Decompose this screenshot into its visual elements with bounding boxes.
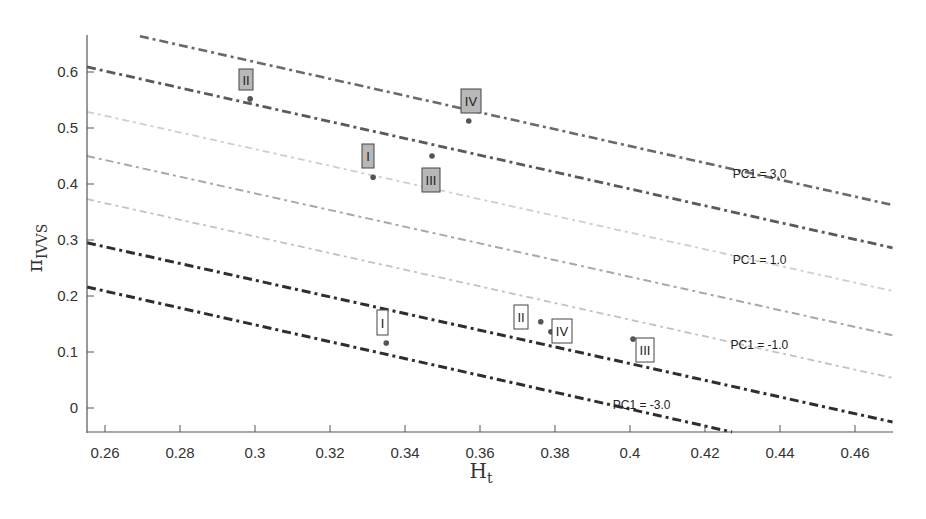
x-axis-title: Ht <box>469 459 492 486</box>
group-labels: IIIIIIIVIIIIVIII <box>239 69 654 362</box>
data-point <box>247 96 253 102</box>
y-tick-label: 0.2 <box>57 287 78 304</box>
y-tick-label: 0 <box>70 399 78 416</box>
data-point <box>429 153 435 159</box>
y-tick-label: 0.6 <box>57 63 78 80</box>
y-axis-ticks: 00.10.20.30.40.50.6 <box>57 63 94 416</box>
pc1-line-label: PC1 = -3.0 <box>613 398 671 412</box>
x-tick-label: 0.38 <box>540 444 569 461</box>
pc1-line-label: PC1 = 3.0 <box>733 167 787 181</box>
data-point <box>383 340 389 346</box>
data-point <box>466 118 472 124</box>
iso-line <box>87 67 893 248</box>
x-tick-label: 0.42 <box>690 444 719 461</box>
group-label-text: I <box>381 316 385 331</box>
x-tick-label: 0.4 <box>620 444 641 461</box>
group-label-text: II <box>242 73 249 88</box>
x-tick-label: 0.34 <box>390 444 419 461</box>
iso-line <box>87 156 893 335</box>
iso-line <box>87 243 893 422</box>
y-tick-label: 0.5 <box>57 119 78 136</box>
data-point <box>538 319 544 325</box>
y-tick-label: 0.1 <box>57 343 78 360</box>
x-tick-label: 0.32 <box>315 444 344 461</box>
group-label-text: II <box>517 310 524 325</box>
group-label-text: IV <box>465 94 478 109</box>
x-tick-label: 0.26 <box>90 444 119 461</box>
data-point <box>370 174 376 180</box>
pc1-iso-lines <box>87 36 893 432</box>
x-tick-label: 0.46 <box>840 444 869 461</box>
x-axis-ticks: 0.260.280.30.320.340.360.380.40.420.440.… <box>90 425 869 461</box>
pc1-scatter-chart: 0.260.280.30.320.340.360.380.40.420.440.… <box>0 0 926 519</box>
y-tick-label: 0.4 <box>57 175 78 192</box>
x-tick-label: 0.44 <box>765 444 794 461</box>
y-axis-title: πIVVS <box>23 224 50 273</box>
group-label-text: I <box>366 149 370 164</box>
pc1-line-label: PC1 = -1.0 <box>731 338 789 352</box>
group-label-text: III <box>426 173 437 188</box>
data-point <box>630 336 636 342</box>
group-label-text: IV <box>556 324 569 339</box>
x-tick-label: 0.28 <box>165 444 194 461</box>
y-tick-label: 0.3 <box>57 231 78 248</box>
group-label-text: III <box>640 343 651 358</box>
pc1-line-label: PC1 = 1.0 <box>733 253 787 267</box>
x-tick-label: 0.3 <box>245 444 266 461</box>
